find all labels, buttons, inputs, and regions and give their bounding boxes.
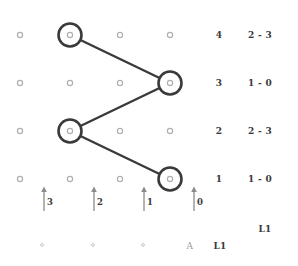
state-pair-row-4: 2 - 3 bbox=[248, 31, 272, 40]
tick-label-2: 2 bbox=[97, 198, 103, 207]
trellis-diagram: 4 3 2 1 2 - 3 1 - 0 2 - 3 1 - 0 3 2 1 0 … bbox=[0, 0, 298, 266]
tick-label-0: 0 bbox=[197, 198, 203, 207]
state-pair-row-3: 1 - 0 bbox=[248, 79, 272, 88]
caption-bottom-letter: A bbox=[187, 242, 194, 251]
state-index-row-1: 1 bbox=[216, 175, 222, 184]
tick-label-1: 1 bbox=[147, 198, 153, 207]
tick-label-3: 3 bbox=[47, 198, 53, 207]
state-index-row-3: 3 bbox=[216, 79, 222, 88]
caption-upper-right: L1 bbox=[258, 225, 271, 234]
state-index-row-2: 2 bbox=[216, 127, 222, 136]
caption-bottom-label: L1 bbox=[213, 242, 226, 251]
state-pair-row-1: 1 - 0 bbox=[248, 175, 272, 184]
diagram-labels: 4 3 2 1 2 - 3 1 - 0 2 - 3 1 - 0 3 2 1 0 … bbox=[0, 0, 298, 266]
state-index-row-4: 4 bbox=[216, 31, 222, 40]
state-pair-row-2: 2 - 3 bbox=[248, 127, 272, 136]
